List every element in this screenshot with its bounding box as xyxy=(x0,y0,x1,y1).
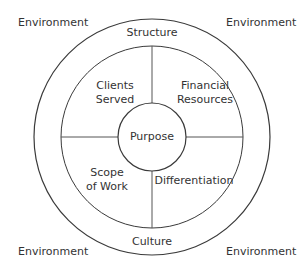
quadrant-label-line1: Financial xyxy=(170,79,240,93)
ring-label-culture: Culture xyxy=(122,235,182,249)
ring-label-structure: Structure xyxy=(122,26,182,40)
quadrant-label-line1: Scope xyxy=(72,166,142,180)
quadrant-label-line2: of Work xyxy=(72,180,142,194)
environment-label-bottom-left: Environment xyxy=(18,245,88,259)
quadrant-label-line2: Served xyxy=(80,93,150,107)
environment-label-top-left: Environment xyxy=(18,16,88,30)
quadrant-clients-served: Clients Served xyxy=(80,79,150,107)
center-label-purpose: Purpose xyxy=(118,130,186,144)
environment-label-top-right: Environment xyxy=(226,16,296,30)
environment-label-bottom-right: Environment xyxy=(226,245,296,259)
quadrant-scope-of-work: Scope of Work xyxy=(72,166,142,194)
quadrant-financial-resources: Financial Resources xyxy=(170,79,240,107)
quadrant-label-line1: Clients xyxy=(80,79,150,93)
quadrant-differentiation: Differentiation xyxy=(154,174,234,188)
quadrant-label-line2: Resources xyxy=(170,93,240,107)
